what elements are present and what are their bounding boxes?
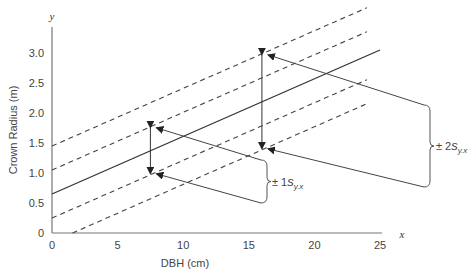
y-tick-label: 3.0 bbox=[29, 47, 44, 59]
x-tick-label: 25 bbox=[374, 239, 386, 251]
y-axis-variable: y bbox=[49, 10, 55, 22]
y-tick-label: 1.0 bbox=[29, 167, 44, 179]
regression-band-diagram: 051015202500.51.01.52.02.53.0 ± 1sy.x± 2… bbox=[0, 0, 472, 273]
curly-bracket bbox=[424, 105, 434, 187]
x-tick-label: 5 bbox=[115, 239, 121, 251]
y-axis-title: Crown Radius (m) bbox=[7, 86, 19, 175]
y-tick-label: 2.0 bbox=[29, 107, 44, 119]
x-axis-variable: x bbox=[399, 228, 405, 240]
x-tick-label: 0 bbox=[49, 239, 55, 251]
x-tick-label: 10 bbox=[177, 239, 189, 251]
x-tick-label: 15 bbox=[243, 239, 255, 251]
y-tick-label: 2.5 bbox=[29, 77, 44, 89]
regression-line bbox=[52, 50, 380, 194]
y-tick-label: 0.5 bbox=[29, 197, 44, 209]
y-tick-label: 1.5 bbox=[29, 137, 44, 149]
x-tick-label: 20 bbox=[308, 239, 320, 251]
interval-label: ± 1sy.x bbox=[272, 174, 304, 191]
leader-arrow-lower bbox=[156, 174, 261, 203]
curly-bracket bbox=[261, 160, 271, 203]
leader-arrow-upper bbox=[268, 55, 424, 105]
interval-label: ± 2sy.x bbox=[436, 138, 468, 155]
y-tick-label: 0 bbox=[38, 227, 44, 239]
confidence-band-line bbox=[73, 104, 367, 233]
x-axis-title: DBH (cm) bbox=[161, 257, 209, 269]
